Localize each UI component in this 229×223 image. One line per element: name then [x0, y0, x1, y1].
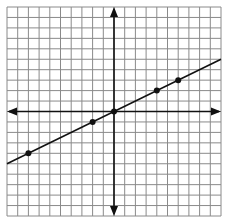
x-axis-arrow-left: [7, 108, 17, 116]
y-axis-arrow-up: [110, 7, 118, 17]
y-axis-arrow-down: [110, 206, 118, 216]
x-axis-arrow-right: [211, 108, 221, 116]
data-point: [175, 77, 181, 83]
coordinate-plane: [0, 0, 229, 223]
data-point: [154, 88, 160, 94]
data-point: [90, 119, 96, 125]
data-point: [25, 150, 31, 156]
data-point: [111, 109, 117, 115]
